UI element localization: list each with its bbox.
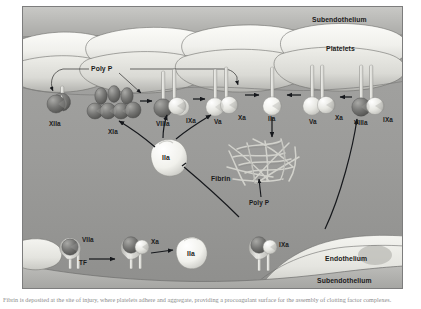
diagram-panel: Subendothelium Platelets Poly P XIIa XIa… [22,6,403,289]
factor-iia-bottom [176,238,207,269]
factor-iia-center [151,139,187,176]
figure-container: Subendothelium Platelets Poly P XIIa XIa… [0,0,421,309]
diagram-canvas [23,7,402,288]
figure-caption: Fibrin is deposited at the site of injur… [0,296,421,309]
